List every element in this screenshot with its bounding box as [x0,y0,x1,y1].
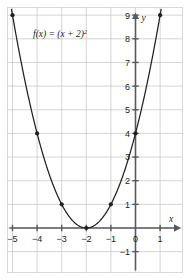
x-tick-label: −5 [7,234,17,244]
y-tick-label: 2 [125,176,130,186]
x-tick-label: 0 [133,234,138,244]
y-tick-label: 6 [125,82,130,92]
data-point [109,202,113,206]
data-point [60,202,64,206]
x-tick-label: −4 [32,234,42,244]
x-tick-label: −1 [106,234,116,244]
parabola-plot: −5−4−3−2−101−1123456789yxf(x) = (x + 2)2 [0,0,190,280]
data-point [158,13,162,17]
x-tick-label: −2 [81,234,91,244]
y-tick-label: 4 [125,129,130,139]
data-point [84,226,88,230]
y-axis-label: y [141,13,147,23]
x-axis-label: x [168,214,174,224]
y-tick-label: 8 [125,34,130,44]
function-label: f(x) = (x + 2)2 [33,28,88,40]
data-point [10,13,14,17]
data-point [133,131,137,135]
x-tick-label: 1 [158,234,163,244]
graph-figure: −5−4−3−2−101−1123456789yxf(x) = (x + 2)2 [0,0,190,280]
y-tick-label: −1 [120,247,130,257]
data-point [35,131,39,135]
y-tick-label: 5 [125,105,130,115]
y-tick-label: 1 [125,200,130,210]
y-tick-label: 9 [125,11,130,21]
x-tick-label: −3 [57,234,67,244]
y-tick-label: 7 [125,58,130,68]
